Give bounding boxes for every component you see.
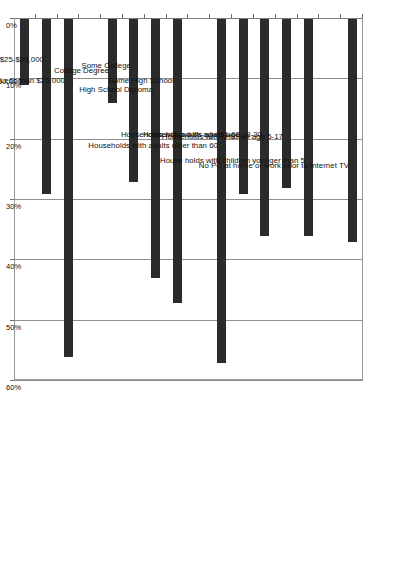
category-tick-mark [122, 14, 123, 18]
category-tick-mark [187, 14, 188, 18]
value-tick-mark [10, 380, 14, 381]
category-tick-mark [144, 14, 145, 18]
category-tick-mark [253, 14, 254, 18]
bar [260, 19, 269, 236]
category-tick-mark [275, 14, 276, 18]
category-tick-mark [340, 14, 341, 18]
category-tick-mark [231, 14, 232, 18]
value-tick-mark [10, 139, 14, 140]
value-tick-mark [10, 320, 14, 321]
category-tick-mark [362, 14, 363, 18]
category-tick-mark [209, 14, 210, 18]
bar [108, 19, 117, 103]
bar [129, 19, 138, 182]
category-tick-mark [35, 14, 36, 18]
category-tick-mark [297, 14, 298, 18]
value-tick-label: 60% [6, 383, 21, 392]
value-tick-mark [10, 259, 14, 260]
value-tick-mark [10, 18, 14, 19]
category-tick-mark [166, 14, 167, 18]
category-tick-mark [57, 14, 58, 18]
bar [282, 19, 291, 188]
bar [348, 19, 357, 242]
bar [64, 19, 73, 357]
bar [239, 19, 248, 194]
bar [42, 19, 51, 194]
bar [173, 19, 182, 303]
plot-area [14, 18, 363, 380]
category-tick-mark [78, 14, 79, 18]
value-tick-mark [10, 199, 14, 200]
category-tick-mark [318, 14, 319, 18]
category-tick-mark [100, 14, 101, 18]
bar [20, 19, 29, 85]
chart-container: 0%10%20%30%40%50%60% No PC at home or wo… [0, 0, 394, 567]
bar [217, 19, 226, 363]
bar [151, 19, 160, 278]
value-tick-mark [10, 78, 14, 79]
bar [304, 19, 313, 236]
gridline [14, 380, 363, 381]
